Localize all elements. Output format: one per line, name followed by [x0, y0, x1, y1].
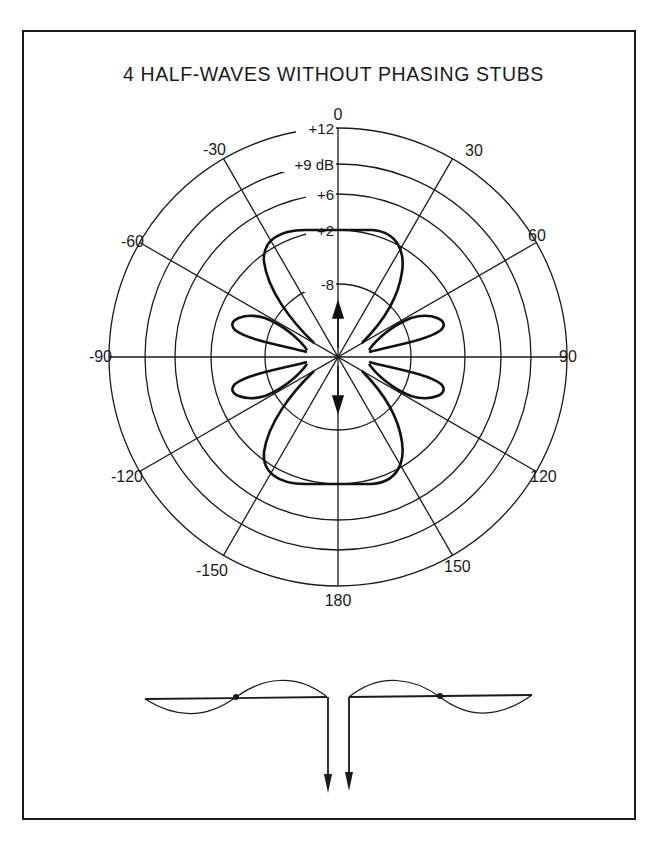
- antenna-diagram: [145, 680, 532, 793]
- angle-label-60: 60: [528, 227, 546, 244]
- arrow-up-icon: [333, 302, 343, 318]
- right-junction-dot: [437, 693, 443, 699]
- ring-label-plus6: +6: [317, 186, 334, 203]
- ring-label-plus12: +12: [309, 120, 334, 137]
- angle-label-minus60: -60: [121, 233, 144, 250]
- ring-labels: +12 +9 dB +6 +2 -8: [294, 120, 334, 293]
- left-junction-dot: [233, 694, 239, 700]
- angle-label-150: 150: [444, 558, 471, 575]
- angle-label-120: 120: [530, 468, 557, 485]
- polar-grid: [109, 128, 567, 586]
- ring-label-plus9db: +9 dB: [294, 156, 334, 173]
- arrow-down-icon: [333, 396, 343, 412]
- angle-label-0: 0: [334, 106, 343, 123]
- angle-label-minus90: -90: [89, 348, 112, 365]
- ring-label-plus2: +2: [317, 222, 334, 239]
- angle-label-30: 30: [465, 142, 483, 159]
- right-feed-arrow-icon: [345, 772, 353, 791]
- ring-label-minus8: -8: [321, 276, 334, 293]
- angle-label-180: 180: [325, 592, 352, 609]
- angle-label-90: 90: [559, 348, 577, 365]
- angle-label-minus30: -30: [203, 141, 226, 158]
- left-feed-arrow-icon: [324, 774, 332, 793]
- angle-label-minus150: -150: [196, 562, 228, 579]
- polar-chart: 0 30 60 90 120 150 180 -150 -120 -90 -60…: [0, 0, 667, 841]
- angle-label-minus120: -120: [111, 468, 143, 485]
